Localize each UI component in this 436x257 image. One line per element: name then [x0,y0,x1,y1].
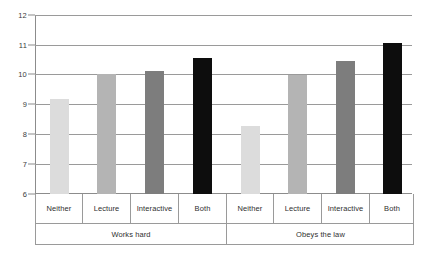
gridline-12 [35,15,412,16]
y-tick-label-7: 7 [23,160,27,169]
y-axis: 12 11 10 9 8 7 6 [0,0,32,257]
bar-obeys-law-neither [241,126,260,194]
y-tick-mark-9 [28,104,35,105]
y-tick-mark-6 [28,194,35,195]
gridline-8 [35,134,412,135]
bar-obeys-law-both [383,43,402,194]
y-tick-mark-11 [28,45,35,46]
category-label-works-hard-both: Both [179,194,226,223]
category-label-works-hard-interactive: Interactive [131,194,178,223]
bar-obeys-law-interactive [336,61,355,195]
y-tick-label-11: 11 [19,41,27,50]
bar-works-hard-both [193,58,212,194]
y-tick-label-8: 8 [23,130,27,139]
bar-obeys-law-lecture [288,75,307,194]
y-tick-label-6: 6 [23,190,27,199]
gridline-7 [35,164,412,165]
bar-works-hard-interactive [145,71,164,194]
category-label-table: Neither Lecture Interactive Both Neither… [35,194,415,246]
category-label-works-hard-neither: Neither [36,194,82,223]
gridline-9 [35,104,412,105]
gridline-11 [35,45,412,46]
y-tick-mark-8 [28,134,35,135]
gridline-10 [35,74,412,75]
y-tick-label-9: 9 [23,100,27,109]
category-label-obeys-law-interactive: Interactive [322,194,369,223]
category-label-obeys-law-both: Both [370,194,414,223]
bar-chart: 12 11 10 9 8 7 6 Neither [0,0,436,257]
y-tick-mark-7 [28,164,35,165]
category-label-obeys-law-lecture: Lecture [274,194,321,223]
group-label-works-hard: Works hard [36,224,226,245]
category-label-works-hard-lecture: Lecture [83,194,130,223]
bar-works-hard-neither [50,99,69,194]
y-tick-label-10: 10 [18,70,27,79]
category-label-obeys-law-neither: Neither [227,194,273,223]
bar-works-hard-lecture [97,74,116,194]
y-tick-label-12: 12 [18,11,27,20]
plot-area [35,15,412,194]
y-tick-mark-12 [28,15,35,16]
group-label-obeys-the-law: Obeys the law [227,224,414,245]
y-tick-mark-10 [28,74,35,75]
